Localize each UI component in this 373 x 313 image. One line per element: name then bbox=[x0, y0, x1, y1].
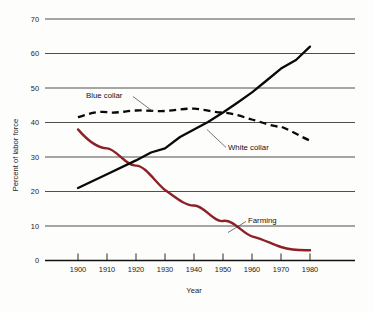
series-annotation-white-collar: White collar bbox=[228, 143, 269, 152]
y-tick-label-20: 20 bbox=[31, 187, 39, 196]
y-tick-label-30: 30 bbox=[31, 153, 39, 162]
x-tick-label-1980: 1980 bbox=[302, 265, 318, 274]
x-tick-label-1950: 1950 bbox=[215, 265, 231, 274]
leader-line-white-collar bbox=[207, 130, 226, 148]
y-tick-label-0: 0 bbox=[35, 256, 39, 265]
series-line-farming bbox=[78, 129, 310, 250]
x-tick-label-1910: 1910 bbox=[99, 265, 115, 274]
series-annotation-blue-collar: Blue collar bbox=[86, 91, 123, 100]
leader-line-blue-collar bbox=[133, 97, 153, 112]
series-line-blue-collar bbox=[78, 109, 310, 141]
y-tick-label-40: 40 bbox=[31, 118, 39, 127]
x-tick-label-1920: 1920 bbox=[128, 265, 144, 274]
line-chart-figure: 70 60 50 40 30 20 10 0 1900 1910 1920 19… bbox=[0, 0, 373, 313]
series-line-white-collar bbox=[78, 47, 310, 188]
y-tick-label-10: 10 bbox=[31, 222, 39, 231]
x-tick-label-1900: 1900 bbox=[70, 265, 86, 274]
x-axis-title: Year bbox=[186, 286, 202, 295]
x-tick-label-1970: 1970 bbox=[273, 265, 289, 274]
y-tick-label-60: 60 bbox=[31, 49, 39, 58]
y-tick-label-70: 70 bbox=[31, 15, 39, 24]
x-tick-label-1960: 1960 bbox=[244, 265, 260, 274]
x-tick-label-1930: 1930 bbox=[157, 265, 173, 274]
x-tick-label-1940: 1940 bbox=[186, 265, 202, 274]
series-annotation-farming: Farming bbox=[248, 216, 277, 225]
y-axis-title: Percent of labor force bbox=[11, 119, 20, 192]
y-tick-label-50: 50 bbox=[31, 84, 39, 93]
